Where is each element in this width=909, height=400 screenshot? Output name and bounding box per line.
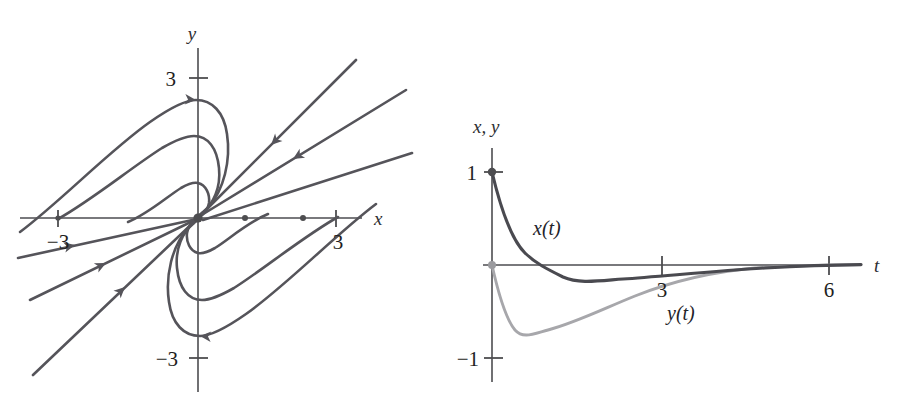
- phase-tick-label-y-pos3: 3: [166, 67, 177, 91]
- initial-point-y: [488, 261, 496, 269]
- axis-crossing-dot-1: [242, 215, 248, 221]
- arrow-loop-lower-outer-icon: [200, 331, 212, 342]
- trajectory-loop-upper-outer: [20, 100, 228, 232]
- arrow-ur-2-icon: [290, 149, 305, 164]
- figure-root: y x 3 −3 −3 3: [0, 0, 909, 400]
- solution-tick-label-1: 1: [467, 161, 478, 185]
- arrow-ll-2-icon: [94, 258, 108, 272]
- solution-curves-svg: x, y t 1 −1 3 6 x(t) y(t): [455, 0, 909, 400]
- phase-portrait-panel: y x 3 −3 −3 3: [0, 0, 455, 400]
- axis-crossing-dot-2: [300, 215, 306, 221]
- axis-crossing-dot-3: [55, 215, 60, 220]
- trajectory-straight-ll-3: [18, 219, 197, 258]
- solution-tick-label-3: 3: [657, 278, 668, 302]
- trajectory-straight-ur-1: [200, 60, 356, 216]
- phase-portrait-svg: y x 3 −3 −3 3: [0, 0, 455, 400]
- solution-value-axis-label: x, y: [472, 116, 500, 137]
- trajectory-straight-ur-2: [200, 90, 406, 216]
- arrow-loop-upper-outer-icon: [185, 94, 197, 105]
- initial-point-x: [488, 168, 496, 176]
- curve-label-x-of-t: x(t): [532, 217, 561, 240]
- curve-label-y-of-t: y(t): [665, 302, 695, 325]
- phase-tick-label-x-pos3: 3: [333, 230, 344, 254]
- equilibrium-dot: [193, 213, 202, 222]
- solution-tick-label-6: 6: [824, 278, 835, 302]
- solution-tick-label-neg1: −1: [457, 347, 479, 371]
- phase-x-axis-label: x: [373, 208, 383, 229]
- solution-curves-panel: x, y t 1 −1 3 6 x(t) y(t): [455, 0, 909, 400]
- trajectory-loop-lower-outer: [168, 204, 376, 336]
- solution-t-axis-label: t: [874, 255, 880, 276]
- phase-y-axis-label: y: [186, 23, 197, 44]
- loop-trajectories-upper: [20, 94, 228, 232]
- phase-tick-label-x-neg3: −3: [47, 230, 69, 254]
- phase-tick-label-y-neg3: −3: [156, 347, 178, 371]
- loop-trajectories-lower: [168, 204, 376, 342]
